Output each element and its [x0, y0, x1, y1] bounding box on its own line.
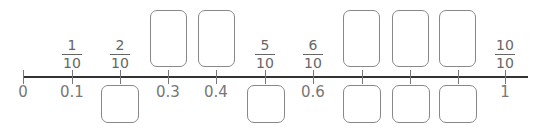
denominator: 10 [496, 55, 514, 71]
answer-box-above-0.4[interactable] [198, 10, 235, 67]
answer-box-below-0.9[interactable] [439, 85, 477, 123]
numerator: 6 [309, 37, 318, 53]
label-0.3: 0.3 [148, 83, 188, 101]
number-line-axis [23, 76, 528, 78]
tick-0.4 [216, 70, 217, 84]
label-1: 1 [485, 83, 525, 101]
denominator: 10 [256, 55, 274, 71]
answer-box-below-0.2[interactable] [101, 85, 139, 123]
tick-0.6 [313, 70, 314, 84]
tick-0.2 [120, 70, 121, 84]
tick-0 [23, 70, 24, 84]
label-0.6: 0.6 [293, 83, 333, 101]
fraction-5-10: 5 10 [250, 38, 280, 71]
numerator: 5 [261, 37, 270, 53]
tick-0.8 [410, 70, 411, 84]
fraction-6-10: 6 10 [298, 38, 328, 71]
numerator: 1 [68, 37, 77, 53]
denominator: 10 [111, 55, 129, 71]
label-0: 0 [3, 83, 43, 101]
answer-box-above-0.3[interactable] [150, 10, 187, 67]
numerator: 2 [116, 37, 125, 53]
answer-box-above-0.7[interactable] [343, 10, 380, 67]
fraction-2-10: 2 10 [105, 38, 135, 71]
tick-1 [505, 70, 506, 84]
denominator: 10 [304, 55, 322, 71]
fraction-1-10: 1 10 [57, 38, 87, 71]
answer-box-below-0.7[interactable] [343, 85, 381, 123]
label-0.1: 0.1 [52, 83, 92, 101]
tick-0.7 [362, 70, 363, 84]
answer-box-below-0.8[interactable] [392, 85, 430, 123]
label-0.4: 0.4 [196, 83, 236, 101]
answer-box-above-0.9[interactable] [439, 10, 476, 67]
denominator: 10 [63, 55, 81, 71]
tick-0.1 [72, 70, 73, 84]
tick-0.5 [265, 70, 266, 84]
numerator: 10 [496, 37, 514, 53]
answer-box-above-0.8[interactable] [392, 10, 429, 67]
tick-0.3 [168, 70, 169, 84]
tick-0.9 [458, 70, 459, 84]
answer-box-below-0.5[interactable] [247, 85, 285, 123]
fraction-10-10: 10 10 [490, 38, 520, 71]
